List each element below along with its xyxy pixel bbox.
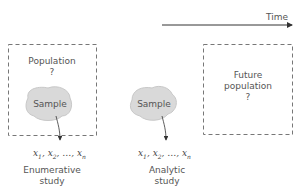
sample-arrow-middle bbox=[162, 116, 166, 140]
sample-arrow-left bbox=[56, 116, 60, 140]
enumerative-caption-line1: Enumerative bbox=[20, 165, 84, 176]
enumerative-caption-line2: study bbox=[20, 176, 84, 187]
future-label-line1: Future bbox=[213, 70, 283, 81]
observations-middle: x1, x2, …, xn bbox=[138, 148, 191, 160]
observations-left: x1, x2, …, xn bbox=[33, 148, 86, 160]
future-label-line2: population bbox=[213, 81, 283, 92]
sample-label-left: Sample bbox=[28, 99, 72, 110]
analytic-caption-line1: Analytic bbox=[135, 165, 199, 176]
sample-label-middle: Sample bbox=[132, 99, 176, 110]
population-label: Population bbox=[18, 56, 86, 67]
population-question: ? bbox=[18, 67, 86, 78]
time-label: Time bbox=[262, 12, 292, 23]
future-question: ? bbox=[213, 92, 283, 103]
analytic-caption-line2: study bbox=[135, 176, 199, 187]
